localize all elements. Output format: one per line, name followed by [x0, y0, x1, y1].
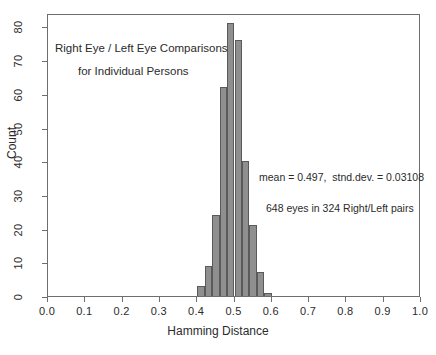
histogram-bar: [235, 40, 242, 296]
plot-area: [48, 15, 419, 296]
y-tick-label: 0: [0, 277, 38, 317]
y-tick-mark: [42, 61, 47, 62]
x-tick-mark: [84, 297, 85, 302]
histogram-bar: [212, 215, 219, 296]
histogram-bar: [220, 87, 227, 296]
x-axis-title: Hamming Distance: [0, 324, 436, 338]
x-tick-label: 1.0: [400, 305, 436, 317]
x-tick-label: 0.7: [288, 305, 328, 317]
y-tick-mark: [42, 27, 47, 28]
plot-frame: [47, 14, 420, 297]
y-tick-mark: [42, 196, 47, 197]
y-axis-title: Count: [5, 93, 19, 193]
y-tick-mark: [42, 263, 47, 264]
histogram-bar: [197, 286, 204, 296]
x-tick-mark: [345, 297, 346, 302]
x-tick-mark: [308, 297, 309, 302]
histogram-bar: [242, 161, 249, 296]
x-tick-label: 0.9: [363, 305, 403, 317]
annotation-statistics: mean = 0.497, stnd.dev. = 0.03108: [259, 171, 424, 183]
x-tick-mark: [159, 297, 160, 302]
histogram-bar: [249, 225, 256, 296]
x-tick-mark: [383, 297, 384, 302]
y-tick-mark: [42, 230, 47, 231]
x-tick-mark: [420, 297, 421, 302]
x-tick-mark: [47, 297, 48, 302]
y-tick-label: 70: [0, 41, 38, 81]
x-tick-mark: [234, 297, 235, 302]
x-tick-label: 0.5: [214, 305, 254, 317]
annotation-comparisons-line2: for Individual Persons: [78, 65, 189, 77]
x-tick-label: 0.4: [176, 305, 216, 317]
y-tick-mark: [42, 297, 47, 298]
y-tick-mark: [42, 162, 47, 163]
histogram-bar: [205, 266, 212, 296]
annotation-comparisons-line1: Right Eye / Left Eye Comparisons: [55, 42, 228, 54]
x-tick-mark: [196, 297, 197, 302]
x-tick-label: 0.8: [325, 305, 365, 317]
x-tick-label: 0.3: [139, 305, 179, 317]
annotation-sample-size: 648 eyes in 324 Right/Left pairs: [266, 202, 414, 214]
histogram-bar: [257, 272, 264, 296]
x-tick-label: 0.6: [251, 305, 291, 317]
y-tick-label: 80: [0, 7, 38, 47]
histogram-bar: [264, 293, 271, 296]
x-tick-mark: [122, 297, 123, 302]
x-tick-label: 0.1: [64, 305, 104, 317]
x-tick-mark: [271, 297, 272, 302]
x-tick-label: 0.2: [102, 305, 142, 317]
y-tick-mark: [42, 95, 47, 96]
histogram-bar: [227, 23, 234, 296]
y-tick-mark: [42, 129, 47, 130]
histogram-figure: 0.00.10.20.30.40.50.60.70.80.91.0 010203…: [0, 0, 436, 355]
